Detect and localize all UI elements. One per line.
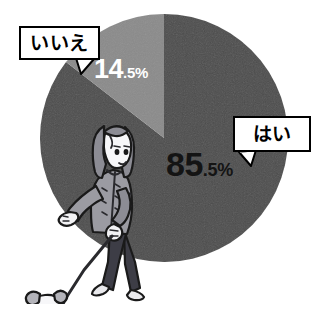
- callout-tail-no: [74, 58, 96, 75]
- callout-label-no: いいえ: [30, 34, 89, 53]
- callout-box-yes[interactable]: はい: [233, 116, 311, 152]
- callout-label-yes: はい: [253, 125, 292, 144]
- percent-label-no: 14.5%: [94, 56, 148, 83]
- woman-walking-dog-illustration: [18, 112, 198, 304]
- percent-yes-decimal: .5%: [203, 160, 233, 180]
- chart-canvas: 14.5% 85.5% いいえ はい: [0, 0, 323, 316]
- callout-tail-yes: [236, 150, 258, 167]
- percent-no-decimal: .5%: [123, 64, 148, 81]
- callout-box-no[interactable]: いいえ: [19, 26, 100, 60]
